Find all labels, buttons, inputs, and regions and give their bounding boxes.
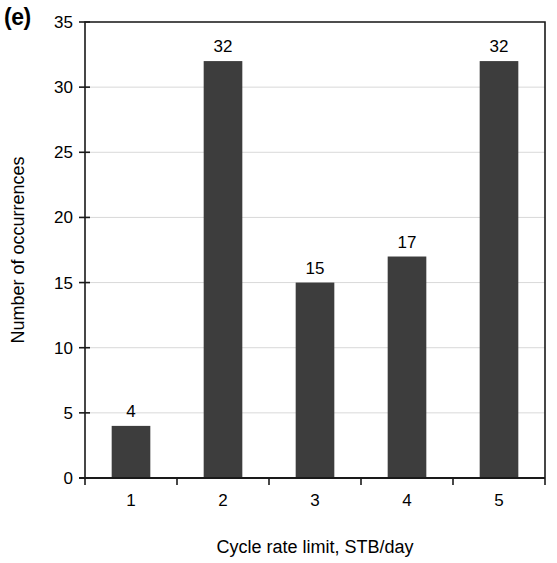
y-tick-label: 30 bbox=[54, 78, 73, 97]
y-axis-title: Number of occurrences bbox=[8, 156, 28, 343]
bar bbox=[112, 426, 151, 478]
y-tick-label: 20 bbox=[54, 208, 73, 227]
y-tick-label: 35 bbox=[54, 13, 73, 32]
y-tick-label: 0 bbox=[64, 469, 73, 488]
bar bbox=[480, 61, 519, 478]
bar bbox=[204, 61, 243, 478]
x-tick-label: 2 bbox=[218, 491, 227, 510]
bar bbox=[296, 283, 335, 478]
y-tick-labels-group: 05101520253035 bbox=[54, 13, 73, 488]
x-tickmarks-group bbox=[85, 478, 545, 485]
y-tick-label: 10 bbox=[54, 339, 73, 358]
x-axis-title: Cycle rate limit, STB/day bbox=[216, 537, 413, 557]
y-tick-label: 5 bbox=[64, 404, 73, 423]
bar-value-label: 4 bbox=[126, 402, 135, 421]
y-tick-label: 15 bbox=[54, 274, 73, 293]
bar-chart: 05101520253035 12345 432151732 Cycle rat… bbox=[0, 0, 557, 563]
y-tick-label: 25 bbox=[54, 143, 73, 162]
x-tick-label: 5 bbox=[494, 491, 503, 510]
bar bbox=[388, 257, 427, 478]
x-tick-labels-group: 12345 bbox=[126, 491, 503, 510]
x-tick-label: 3 bbox=[310, 491, 319, 510]
x-tick-label: 4 bbox=[402, 491, 411, 510]
bar-value-label: 32 bbox=[490, 37, 509, 56]
figure-container: (e) 05101520253035 12345 432151732 Cycle… bbox=[0, 0, 557, 563]
bar-value-label: 32 bbox=[214, 37, 233, 56]
bar-value-label: 15 bbox=[306, 259, 325, 278]
x-tick-label: 1 bbox=[126, 491, 135, 510]
bar-value-label: 17 bbox=[398, 233, 417, 252]
